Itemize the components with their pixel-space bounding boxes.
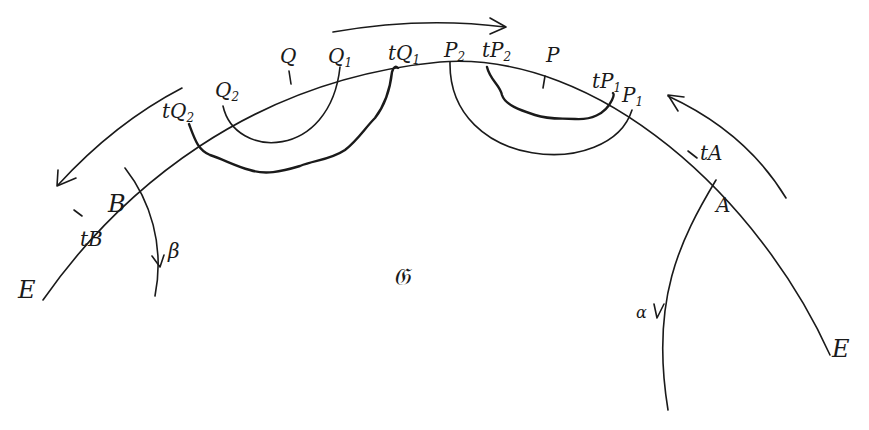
- alpha-curve: [654, 180, 716, 410]
- right-arrow-icon: [668, 95, 786, 198]
- tick-tB: [74, 210, 82, 216]
- label-P2: P2: [443, 38, 465, 64]
- label-A: A: [714, 193, 730, 217]
- label-E-left: E: [17, 276, 36, 304]
- top-arrow-icon: [333, 18, 506, 34]
- q-semicircle: [223, 67, 340, 143]
- label-tA: tA: [700, 141, 722, 165]
- tick-P: [543, 76, 545, 88]
- tick-tA: [688, 151, 697, 158]
- tick-Q: [289, 71, 291, 84]
- label-tP1: tP1: [592, 69, 621, 95]
- label-tQ2: tQ2: [162, 99, 194, 125]
- label-Q2: Q2: [215, 78, 239, 104]
- label-alpha: α: [636, 303, 647, 322]
- label-tP2: tP2: [482, 38, 511, 64]
- label-E-right: E: [831, 335, 850, 363]
- label-region: 𝔊: [393, 263, 413, 291]
- label-tQ1: tQ1: [388, 41, 420, 67]
- label-P: P: [545, 43, 560, 67]
- label-B: B: [107, 190, 126, 218]
- label-tB: tB: [80, 227, 103, 251]
- label-Q: Q: [280, 44, 296, 68]
- label-Q1: Q1: [328, 44, 352, 70]
- boundary-diagram: E E tQ2 Q2 Q Q1 tQ1 P2 tP2 P tP1 P1 tA A…: [0, 0, 869, 430]
- label-P1: P1: [621, 83, 643, 109]
- label-beta: β: [167, 239, 180, 263]
